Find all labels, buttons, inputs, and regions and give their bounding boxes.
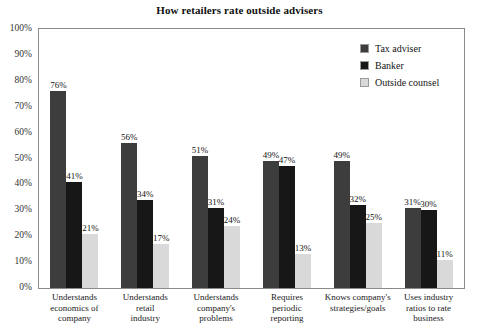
x-axis-category-line: ratios to rate	[389, 303, 468, 314]
bar-value-label: 49%	[333, 151, 350, 160]
bar: 30%	[421, 210, 437, 288]
y-axis-tick-label: 50%	[0, 154, 32, 164]
bar-value-label: 24%	[224, 216, 241, 225]
x-axis-category-label: Requiresperiodicreporting	[248, 292, 327, 324]
legend-color-swatch	[360, 61, 369, 70]
x-axis-category-line: Requires	[248, 292, 327, 303]
bar: 56%	[121, 143, 137, 288]
bar-group: 49%47%13%	[252, 29, 323, 288]
bar: 31%	[208, 208, 224, 288]
bar: 49%	[263, 161, 279, 288]
bar-value-label: 30%	[420, 200, 437, 209]
bar-value-label: 13%	[295, 244, 312, 253]
bar-slot: 76%	[50, 29, 66, 288]
bar-group: 51%31%24%	[181, 29, 252, 288]
bar-slot: 49%	[334, 29, 350, 288]
y-axis-tick-label: 30%	[0, 206, 32, 216]
bar: 13%	[295, 254, 311, 288]
bar-value-label: 56%	[121, 133, 138, 142]
bar: 11%	[437, 260, 453, 288]
y-axis-tick-label: 80%	[0, 76, 32, 86]
x-axis-category-line: economics of	[35, 303, 114, 314]
y-axis-tick-label: 40%	[0, 180, 32, 190]
bar-value-label: 31%	[404, 198, 421, 207]
x-axis-category-line: company's	[177, 303, 256, 314]
bar: 21%	[82, 234, 98, 288]
bar-slot: 56%	[121, 29, 137, 288]
legend-color-swatch	[360, 44, 369, 53]
bar: 41%	[66, 182, 82, 288]
x-axis-category-line: periodic	[248, 303, 327, 314]
bar-slot: 51%	[192, 29, 208, 288]
y-axis-tick-label: 20%	[0, 231, 32, 241]
bar-chart: How retailers rate outside advisers 0%10…	[0, 0, 479, 327]
x-axis-category-line: reporting	[248, 313, 327, 324]
bar: 24%	[224, 226, 240, 288]
bar-slot: 31%	[208, 29, 224, 288]
bar: 47%	[279, 166, 295, 288]
x-axis-category-line: strategies/goals	[318, 303, 397, 314]
legend-item[interactable]: Tax adviser	[360, 41, 465, 56]
x-axis-category-label: Understandsretailindustry	[106, 292, 185, 324]
bar-value-label: 49%	[263, 151, 280, 160]
bar-slot: 34%	[137, 29, 153, 288]
bar-value-label: 25%	[365, 213, 382, 222]
x-axis-category-line: problems	[177, 313, 256, 324]
x-axis-category-line: Understands	[106, 292, 185, 303]
legend-label: Tax adviser	[375, 43, 421, 54]
chart-legend: Tax adviserBankerOutside counsel	[360, 41, 465, 92]
bar: 17%	[153, 244, 169, 288]
bar-slot: 49%	[263, 29, 279, 288]
bar-slot: 41%	[66, 29, 82, 288]
bar-value-label: 51%	[192, 146, 209, 155]
bar-group: 56%34%17%	[110, 29, 181, 288]
bar-slot: 17%	[153, 29, 169, 288]
x-axis-category-line: company	[35, 313, 114, 324]
x-axis-category-line: retail	[106, 303, 185, 314]
x-axis-category-label: Understandscompany'sproblems	[177, 292, 256, 324]
bar-value-label: 21%	[82, 224, 99, 233]
bar-slot: 24%	[224, 29, 240, 288]
x-axis-category-label: Uses industryratios to ratebusiness	[389, 292, 468, 324]
x-axis-category-line: business	[389, 313, 468, 324]
bar: 25%	[366, 223, 382, 288]
x-axis-category-line: industry	[106, 313, 185, 324]
x-axis-category-label: Knows company'sstrategies/goals	[318, 292, 397, 313]
x-axis-category-line: Uses industry	[389, 292, 468, 303]
x-axis-labels: Understandseconomics ofcompanyUnderstand…	[39, 292, 464, 327]
bar-value-label: 47%	[279, 156, 296, 165]
x-axis-category-line: Knows company's	[318, 292, 397, 303]
bar: 76%	[50, 91, 66, 288]
legend-label: Outside counsel	[375, 77, 439, 88]
bar-value-label: 32%	[349, 195, 366, 204]
bar-value-label: 41%	[66, 172, 83, 181]
bar-slot: 47%	[279, 29, 295, 288]
legend-label: Banker	[375, 60, 404, 71]
x-axis-category-line: Understands	[35, 292, 114, 303]
bar-value-label: 76%	[50, 81, 67, 90]
bar-value-label: 17%	[153, 234, 170, 243]
bar: 32%	[350, 205, 366, 288]
y-axis-tick-label: 60%	[0, 128, 32, 138]
bar-value-label: 34%	[137, 190, 154, 199]
y-axis-tick-label: 70%	[0, 102, 32, 112]
legend-item[interactable]: Banker	[360, 58, 465, 73]
x-axis-category-line: Understands	[177, 292, 256, 303]
bar-group: 76%41%21%	[39, 29, 110, 288]
bar: 34%	[137, 200, 153, 288]
y-axis-tick-label: 90%	[0, 50, 32, 60]
bar: 49%	[334, 161, 350, 288]
bar-slot: 13%	[295, 29, 311, 288]
chart-title: How retailers rate outside advisers	[0, 4, 479, 16]
legend-item[interactable]: Outside counsel	[360, 75, 465, 90]
y-axis-tick-label: 10%	[0, 257, 32, 267]
bar-value-label: 31%	[208, 198, 225, 207]
bar-slot: 21%	[82, 29, 98, 288]
y-axis-tick-label: 0%	[0, 283, 32, 293]
bar-value-label: 11%	[436, 250, 452, 259]
bar: 31%	[405, 208, 421, 288]
bar: 51%	[192, 156, 208, 288]
legend-color-swatch	[360, 78, 369, 87]
y-axis-tick-label: 100%	[0, 24, 32, 34]
y-axis: 0%10%20%30%40%50%60%70%80%90%100%	[0, 28, 38, 289]
